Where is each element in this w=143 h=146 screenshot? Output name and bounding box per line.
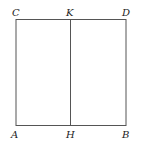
label-d: D <box>121 7 130 18</box>
label-h: H <box>65 129 75 140</box>
label-b: B <box>121 129 129 140</box>
label-k: K <box>65 7 74 18</box>
label-a: A <box>10 129 18 140</box>
diagram: C K D A H B <box>0 0 143 146</box>
label-c: C <box>12 7 20 18</box>
